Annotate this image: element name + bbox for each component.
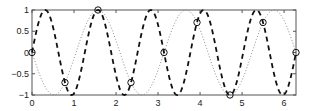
line-chart: 0123456 −1−0.500.51	[0, 0, 311, 111]
y-tick-label: 1	[24, 5, 29, 15]
x-tick-label: 6	[282, 98, 287, 108]
x-tick-label: 0	[29, 98, 34, 108]
x-tick-label: 4	[198, 98, 203, 108]
x-tick-label: 3	[156, 98, 161, 108]
y-tick-label: −0.5	[11, 69, 29, 79]
y-tick-label: 0	[24, 48, 29, 58]
x-tick-label: 1	[72, 98, 77, 108]
x-tick-label: 2	[114, 98, 119, 108]
y-tick-label: −1	[19, 90, 29, 100]
y-tick-label: 0.5	[16, 26, 29, 36]
x-tick-label: 5	[240, 98, 245, 108]
